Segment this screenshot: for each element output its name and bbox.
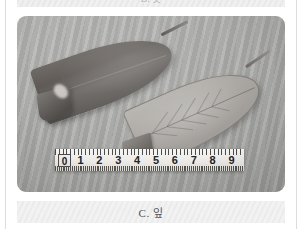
leaf-specimen-photograph: 0 1 2 3 4 5 6 7 8 9 <box>17 16 285 192</box>
leaf-petiole-pale <box>245 50 271 69</box>
page-rule-left <box>5 0 6 229</box>
figure-caption: C. 잎 <box>139 204 164 220</box>
page-rule-right <box>296 0 297 229</box>
previous-caption-sliver: B. 꽃 <box>17 0 285 7</box>
leaf-petiole-dark <box>161 20 189 36</box>
ruler-ticks-bottom <box>55 166 244 171</box>
previous-caption-text: B. 꽃 <box>17 0 285 2</box>
scale-ruler: 0 1 2 3 4 5 6 7 8 9 <box>55 149 244 171</box>
plate-page: B. 꽃 0 <box>0 0 302 229</box>
caption-band: C. 잎 <box>17 201 285 223</box>
